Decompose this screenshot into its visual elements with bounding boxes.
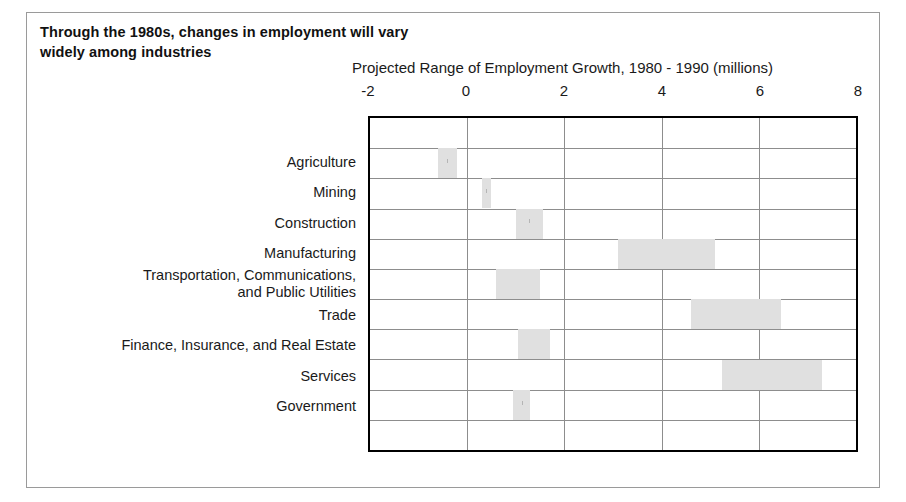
range-bar — [513, 390, 530, 420]
horizontal-gridline — [370, 209, 856, 210]
y-axis-category-label: Manufacturing — [40, 245, 356, 262]
range-bar — [438, 148, 457, 178]
horizontal-gridline — [370, 329, 856, 330]
x-axis-tick-labels: -202468 — [368, 82, 858, 108]
x-axis-tick-label: -2 — [361, 82, 374, 99]
y-axis-category-labels: AgricultureMiningConstructionManufacturi… — [40, 116, 362, 452]
y-axis-category-label: Mining — [40, 184, 356, 201]
y-axis-category-label: Agriculture — [40, 153, 356, 170]
y-axis-category-label: Construction — [40, 214, 356, 231]
x-axis-caption: Projected Range of Employment Growth, 19… — [352, 58, 872, 78]
horizontal-gridline — [370, 390, 856, 391]
range-bar — [482, 178, 492, 208]
vertical-gridline — [564, 118, 565, 450]
horizontal-gridline — [370, 269, 856, 270]
horizontal-gridline — [370, 299, 856, 300]
y-axis-category-label: Finance, Insurance, and Real Estate — [40, 337, 356, 354]
range-bar — [618, 239, 715, 269]
vertical-gridline — [759, 118, 760, 450]
plot-area — [368, 116, 858, 452]
x-axis-tick-label: 4 — [658, 82, 666, 99]
range-bar — [691, 299, 781, 329]
plot-inner — [370, 118, 856, 450]
range-bar — [516, 209, 543, 239]
horizontal-gridline — [370, 178, 856, 179]
x-axis-tick-label: 6 — [756, 82, 764, 99]
range-bar — [496, 269, 540, 299]
y-axis-category-label: Transportation, Communications, and Publ… — [40, 267, 356, 301]
range-bar — [518, 329, 550, 359]
range-bar — [722, 360, 822, 390]
horizontal-gridline — [370, 420, 856, 421]
y-axis-category-label: Government — [40, 398, 356, 415]
y-axis-category-label: Trade — [40, 306, 356, 323]
chart-title: Through the 1980s, changes in employment… — [40, 22, 600, 62]
horizontal-gridline — [370, 239, 856, 240]
x-axis-tick-label: 8 — [854, 82, 862, 99]
vertical-gridline — [662, 118, 663, 450]
vertical-gridline — [467, 118, 468, 450]
chart-title-line-1: Through the 1980s, changes in employment… — [40, 24, 408, 40]
x-axis-tick-label: 0 — [462, 82, 470, 99]
y-axis-category-label: Services — [40, 367, 356, 384]
x-axis-tick-label: 2 — [560, 82, 568, 99]
